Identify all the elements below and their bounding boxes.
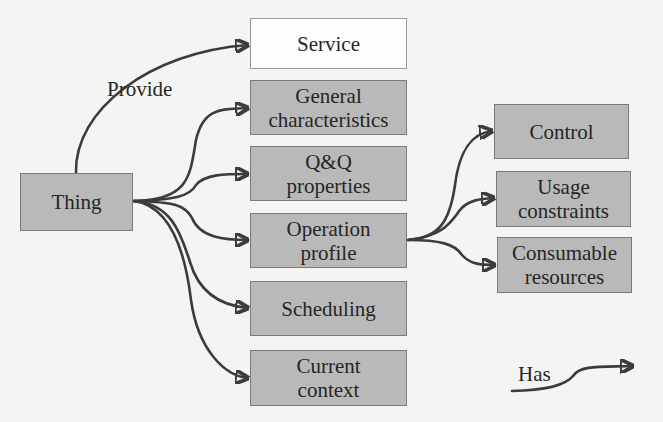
- node-general-line2: characteristics: [268, 108, 388, 132]
- node-service-label: Service: [297, 32, 360, 56]
- node-consumable-line2: resources: [525, 265, 604, 289]
- node-qq-line2: properties: [287, 174, 371, 198]
- node-control: Control: [494, 104, 629, 159]
- node-thing-label: Thing: [51, 190, 101, 214]
- node-usage-line1: Usage: [537, 175, 589, 199]
- node-operation-line2: profile: [301, 241, 357, 265]
- node-general-characteristics: General characteristics: [250, 80, 407, 135]
- node-usage-line2: constraints: [518, 199, 609, 223]
- edge-thing-context: [134, 201, 248, 378]
- node-consumable-resources: Consumable resources: [497, 237, 632, 293]
- node-usage-constraints: Usage constraints: [496, 171, 631, 227]
- node-qq-line1: Q&Q: [305, 150, 352, 174]
- node-scheduling-label: Scheduling: [281, 297, 376, 321]
- node-control-label: Control: [529, 120, 593, 144]
- node-service: Service: [250, 18, 407, 69]
- diagram-canvas: Thing Service General characteristics Q&…: [0, 0, 663, 422]
- node-context-line1: Current: [296, 354, 360, 378]
- edge-thing-qq: [134, 174, 248, 201]
- edge-operation-consumable: [408, 240, 495, 265]
- node-general-line1: General: [295, 84, 361, 108]
- edge-label-provide: Provide: [107, 77, 172, 101]
- node-operation-profile: Operation profile: [250, 213, 407, 268]
- node-qq-properties: Q&Q properties: [250, 146, 407, 201]
- legend-has-label: Has: [518, 362, 551, 386]
- node-context-line2: context: [298, 378, 360, 402]
- node-current-context: Current context: [250, 350, 407, 406]
- node-consumable-line1: Consumable: [512, 241, 617, 265]
- node-scheduling: Scheduling: [250, 281, 407, 336]
- node-thing: Thing: [20, 173, 133, 231]
- node-operation-line1: Operation: [287, 217, 371, 241]
- edge-thing-general: [134, 108, 248, 201]
